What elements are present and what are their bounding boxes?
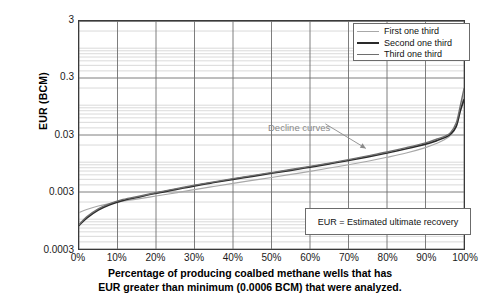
y-tick-labels: 3 0.3 0.03 0.003 0.0003	[20, 0, 74, 250]
x-axis-title: Percentage of producing coalbed methane …	[40, 266, 460, 294]
x-tick-label: 100%	[442, 253, 488, 263]
eur-definition-label: EUR = Estimated ultimate recovery	[318, 217, 458, 227]
y-tick-label: 0.03	[24, 130, 74, 140]
legend[interactable]: First one third Second one third Third o…	[353, 23, 470, 61]
legend-item-second[interactable]: Second one third	[357, 38, 466, 50]
legend-item-third[interactable]: Third one third	[357, 49, 466, 61]
legend-label-first: First one third	[384, 26, 439, 37]
legend-label-third: Third one third	[384, 49, 442, 60]
annotation-leader-line	[325, 124, 365, 148]
legend-swatch-third	[357, 54, 379, 55]
legend-swatch-second	[357, 42, 379, 44]
legend-item-first[interactable]: First one third	[357, 26, 466, 38]
chart-figure: EUR (BCM) 3 0.3 0.03 0.003 0.0003 0% 10%…	[0, 0, 493, 303]
y-tick-label: 0.003	[24, 187, 74, 197]
decline-curves-annotation: Decline curves	[268, 122, 330, 133]
eur-definition-box: EUR = Estimated ultimate recovery	[305, 208, 471, 235]
x-axis-title-line2: EUR greater than minimum (0.0006 BCM) th…	[40, 280, 460, 294]
y-tick-label: 0.3	[24, 72, 74, 82]
legend-swatch-first	[357, 31, 379, 32]
x-axis-title-line1: Percentage of producing coalbed methane …	[40, 266, 460, 280]
y-tick-label: 3	[24, 15, 74, 25]
legend-label-second: Second one third	[384, 38, 452, 49]
